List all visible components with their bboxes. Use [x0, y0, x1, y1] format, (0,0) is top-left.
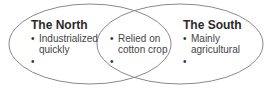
north-title: The North — [31, 18, 88, 32]
south-title: The South — [183, 18, 242, 32]
north-bullet-1: • — [31, 33, 35, 44]
south-bullet-1: • — [183, 33, 187, 44]
north-item-1-line-2: quickly — [39, 44, 70, 55]
south-item-1-line-1: Mainly — [191, 33, 220, 44]
overlap-item-1-line-2: cotton crop — [118, 44, 167, 55]
south-bullet-empty: • — [183, 56, 187, 67]
overlap-item-1-line-1: Relied on — [118, 33, 160, 44]
north-bullet-empty: • — [31, 56, 35, 67]
overlap-bullet-empty: • — [110, 56, 114, 67]
overlap-bullet-1: • — [110, 33, 114, 44]
north-item-1-line-1: Industrialized — [39, 33, 98, 44]
south-item-1-line-2: agricultural — [191, 44, 240, 55]
